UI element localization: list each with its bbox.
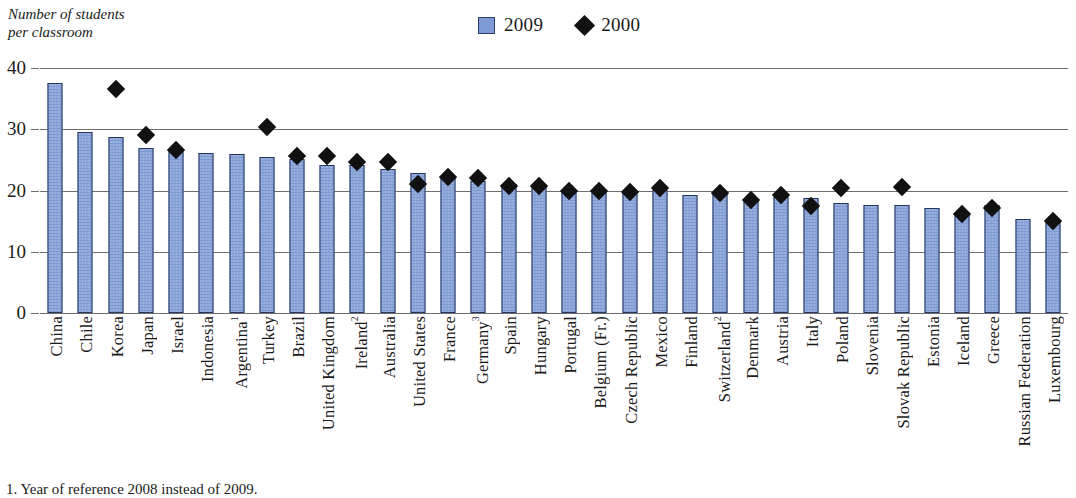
x-axis-tick-label: Germany3 bbox=[470, 316, 493, 384]
bar-column[interactable] bbox=[131, 68, 161, 313]
bar-2009[interactable] bbox=[803, 198, 818, 313]
x-axis-tick-label: United States bbox=[410, 316, 430, 407]
bar-column[interactable] bbox=[1038, 68, 1068, 313]
bar-2009[interactable] bbox=[955, 214, 970, 313]
x-axis-tick-label: Switzerland2 bbox=[712, 316, 735, 402]
bar-column[interactable] bbox=[70, 68, 100, 313]
bar-2009[interactable] bbox=[622, 191, 637, 313]
bar-column[interactable] bbox=[1008, 68, 1038, 313]
bar-column[interactable] bbox=[917, 68, 947, 313]
bar-2009[interactable] bbox=[259, 157, 274, 313]
bar-2009[interactable] bbox=[592, 191, 607, 313]
bar-2009[interactable] bbox=[138, 148, 153, 313]
bar-column[interactable] bbox=[977, 68, 1007, 313]
bar-2009[interactable] bbox=[320, 165, 335, 313]
bar-column[interactable] bbox=[705, 68, 735, 313]
x-axis-tick-label: Indonesia bbox=[198, 316, 218, 382]
bar-column[interactable] bbox=[191, 68, 221, 313]
y-axis-tick-mark bbox=[31, 129, 39, 130]
x-axis-tick-label: Slovenia bbox=[863, 316, 883, 375]
bar-column[interactable] bbox=[524, 68, 554, 313]
bar-column[interactable] bbox=[312, 68, 342, 313]
x-axis-tick-label: Slovak Republic bbox=[894, 316, 914, 429]
bar-2009[interactable] bbox=[169, 150, 184, 313]
diamond-marker-icon bbox=[574, 14, 595, 35]
bar-2009[interactable] bbox=[531, 186, 546, 313]
x-axis-tick-label: Greece bbox=[984, 316, 1004, 364]
x-axis-tick-label: Poland bbox=[833, 316, 853, 363]
x-axis-tick-label: Chile bbox=[77, 316, 97, 353]
bar-2009[interactable] bbox=[380, 169, 395, 313]
bar-2009[interactable] bbox=[410, 173, 425, 313]
bar-2009[interactable] bbox=[652, 190, 667, 313]
legend-item-2000: 2000 bbox=[577, 14, 640, 36]
bar-2009[interactable] bbox=[108, 137, 123, 313]
bar-column[interactable] bbox=[100, 68, 130, 313]
bar-column[interactable] bbox=[826, 68, 856, 313]
diamond-marker-2000[interactable] bbox=[832, 179, 850, 197]
bar-column[interactable] bbox=[796, 68, 826, 313]
bar-column[interactable] bbox=[252, 68, 282, 313]
bar-2009[interactable] bbox=[471, 181, 486, 313]
y-axis-tick-mark bbox=[31, 252, 39, 253]
bar-swatch-icon bbox=[478, 17, 495, 34]
bar-column[interactable] bbox=[494, 68, 524, 313]
bar-column[interactable] bbox=[221, 68, 251, 313]
bar-column[interactable] bbox=[433, 68, 463, 313]
x-axis-tick-label: Austria bbox=[773, 316, 793, 366]
bar-column[interactable] bbox=[161, 68, 191, 313]
bar-column[interactable] bbox=[887, 68, 917, 313]
bar-2009[interactable] bbox=[834, 203, 849, 313]
bar-column[interactable] bbox=[342, 68, 372, 313]
x-axis-tick-label: Czech Republic bbox=[622, 316, 642, 424]
bar-2009[interactable] bbox=[562, 191, 577, 314]
bar-2009[interactable] bbox=[773, 197, 788, 313]
bar-column[interactable] bbox=[766, 68, 796, 313]
bar-2009[interactable] bbox=[501, 184, 516, 313]
diamond-marker-2000[interactable] bbox=[137, 126, 155, 144]
x-axis-tick-label: Israel bbox=[168, 316, 188, 354]
x-axis-tick-label: Belgium (Fr.) bbox=[591, 316, 611, 408]
bar-column[interactable] bbox=[614, 68, 644, 313]
bar-column[interactable] bbox=[554, 68, 584, 313]
bar-2009[interactable] bbox=[924, 208, 939, 313]
x-axis-tick-label: Russian Federation bbox=[1015, 316, 1035, 447]
bar-2009[interactable] bbox=[743, 199, 758, 313]
bar-2009[interactable] bbox=[864, 205, 879, 313]
x-axis-tick-label: Italy bbox=[803, 316, 823, 347]
diamond-marker-2000[interactable] bbox=[106, 80, 124, 98]
bar-column[interactable] bbox=[735, 68, 765, 313]
bar-column[interactable] bbox=[675, 68, 705, 313]
bar-2009[interactable] bbox=[199, 153, 214, 313]
bar-column[interactable] bbox=[947, 68, 977, 313]
y-axis-tick-label: 0 bbox=[0, 303, 26, 322]
diamond-marker-2000[interactable] bbox=[892, 178, 910, 196]
x-axis-tick-label: United Kingdom bbox=[319, 316, 339, 430]
bar-column[interactable] bbox=[584, 68, 614, 313]
bar-2009[interactable] bbox=[683, 195, 698, 313]
bar-2009[interactable] bbox=[713, 194, 728, 313]
legend-item-2009: 2009 bbox=[478, 14, 543, 36]
bar-column[interactable] bbox=[40, 68, 70, 313]
bar-2009[interactable] bbox=[894, 205, 909, 313]
x-axis-tick-label: Portugal bbox=[561, 316, 581, 374]
bar-2009[interactable] bbox=[350, 165, 365, 313]
bar-2009[interactable] bbox=[441, 178, 456, 313]
bar-column[interactable] bbox=[403, 68, 433, 313]
bar-2009[interactable] bbox=[48, 83, 63, 313]
diamond-marker-2000[interactable] bbox=[258, 118, 276, 136]
bar-column[interactable] bbox=[645, 68, 675, 313]
bar-2009[interactable] bbox=[289, 159, 304, 313]
bar-2009[interactable] bbox=[985, 205, 1000, 313]
bar-column[interactable] bbox=[282, 68, 312, 313]
bar-column[interactable] bbox=[856, 68, 886, 313]
bar-2009[interactable] bbox=[1015, 219, 1030, 313]
bar-2009[interactable] bbox=[78, 132, 93, 313]
gridline bbox=[40, 313, 1068, 314]
bar-2009[interactable] bbox=[1045, 222, 1060, 313]
bar-column[interactable] bbox=[373, 68, 403, 313]
bar-column[interactable] bbox=[463, 68, 493, 313]
diamond-marker-2000[interactable] bbox=[318, 147, 336, 165]
x-axis-tick-label: Argentina1 bbox=[229, 316, 252, 389]
bar-2009[interactable] bbox=[229, 154, 244, 313]
